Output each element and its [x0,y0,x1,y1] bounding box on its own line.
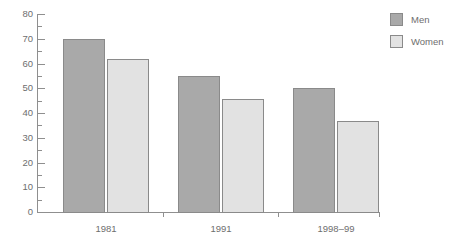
plot-area: 80 70 60 50 40 30 20 [37,8,380,213]
y-tick-minor-25 [38,150,42,151]
bar-1981-women [107,59,149,213]
bar-1991-women [222,99,264,212]
y-tick-minor-65 [38,51,42,52]
y-tick-60: 60 [38,64,45,65]
x-tick-separator-3 [379,213,380,217]
y-tick-minor-45 [38,101,42,102]
y-tick-label-70: 70 [22,34,33,44]
y-tick-minor-15 [38,175,42,176]
x-axis-label-1998-99: 1998–99 [318,224,355,234]
x-tick-separator-1 [163,213,164,217]
legend-swatch-men-icon [390,13,403,26]
y-tick-20: 20 [38,163,45,164]
y-tick-minor-5 [38,200,42,201]
legend-label-men: Men [411,15,429,25]
y-tick-label-60: 60 [22,59,33,69]
y-tick-10: 10 [38,187,45,188]
bar-1998-99-women [337,121,379,213]
chart-legend: Men Women [390,11,444,55]
bar-1991-men [178,76,220,213]
y-tick-40: 40 [38,113,45,114]
bar-chart: 80 70 60 50 40 30 20 [0,0,458,243]
legend-swatch-women-icon [390,35,403,48]
y-tick-30: 30 [38,138,45,139]
y-tick-label-10: 10 [22,183,33,193]
y-tick-minor-55 [38,76,42,77]
x-axis-label-1981: 1981 [95,224,116,234]
y-tick-minor-75 [38,26,42,27]
y-tick-label-20: 20 [22,158,33,168]
legend-label-women: Women [411,37,444,47]
y-tick-70: 70 [38,39,45,40]
y-tick-80: 80 [38,14,45,15]
y-tick-label-50: 50 [22,84,33,94]
bar-1998-99-men [293,88,335,213]
y-tick-minor-35 [38,125,42,126]
legend-item-men: Men [390,11,444,28]
y-tick-label-80: 80 [22,9,33,19]
y-tick-50: 50 [38,88,45,89]
bar-1981-men [63,39,105,213]
x-axis-label-1991: 1991 [210,224,231,234]
y-tick-label-0: 0 [28,207,33,217]
x-tick-separator-2 [278,213,279,217]
legend-item-women: Women [390,33,444,50]
y-tick-0: 0 [38,212,45,213]
y-tick-label-40: 40 [22,108,33,118]
y-tick-label-30: 30 [22,133,33,143]
